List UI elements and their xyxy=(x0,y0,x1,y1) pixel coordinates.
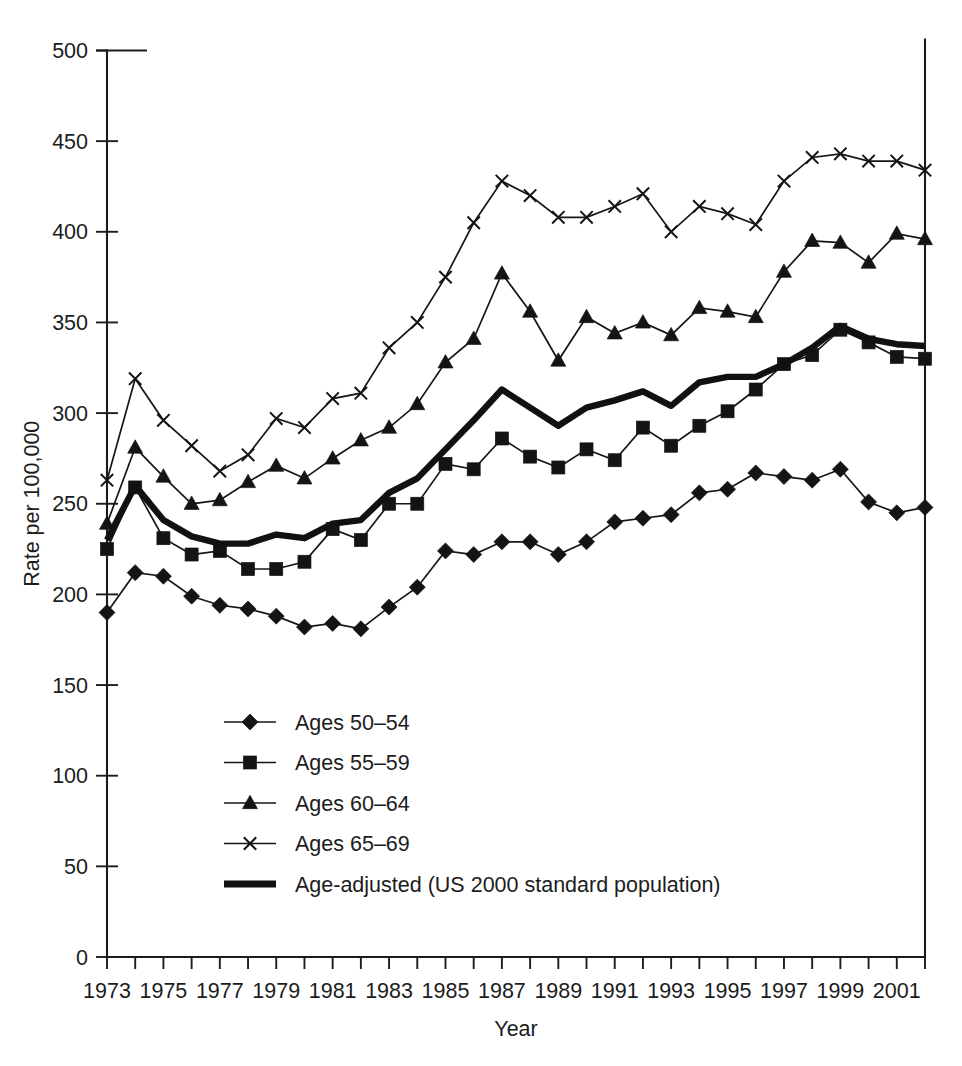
x-tick-label-1977: 1977 xyxy=(196,979,244,1003)
data-point-0-1973 xyxy=(99,605,115,621)
data-point-1-1996 xyxy=(749,383,762,396)
data-point-1-1989 xyxy=(552,461,565,474)
x-tick-label-1983: 1983 xyxy=(365,979,413,1003)
legend-marker-square xyxy=(244,756,257,769)
data-point-2-1978 xyxy=(241,474,256,487)
data-point-0-2002 xyxy=(917,499,933,515)
data-point-0-1974 xyxy=(127,565,143,581)
data-point-3-1993 xyxy=(665,226,677,238)
data-point-3-1991 xyxy=(609,200,621,212)
data-point-1-1978 xyxy=(242,563,255,576)
data-point-1-1980 xyxy=(298,555,311,568)
data-point-1-1994 xyxy=(693,419,706,432)
data-point-0-1991 xyxy=(607,514,623,530)
data-point-0-1989 xyxy=(550,547,566,563)
data-point-2-1984 xyxy=(410,396,425,409)
data-point-0-1985 xyxy=(437,543,453,559)
data-point-2-2001 xyxy=(889,226,904,239)
data-point-3-1979 xyxy=(270,412,282,424)
y-tick-label-200: 200 xyxy=(52,583,88,607)
y-tick-label-0: 0 xyxy=(76,946,88,970)
data-point-2-1982 xyxy=(353,433,368,446)
data-point-1-1982 xyxy=(354,534,367,547)
x-axis-title: Year xyxy=(494,1017,537,1041)
data-point-1-1988 xyxy=(524,450,537,463)
data-point-3-1987 xyxy=(496,175,508,187)
data-point-3-1974 xyxy=(129,372,141,384)
legend-item-0: Ages 50–54 xyxy=(224,711,410,735)
legend-item-1: Ages 55–59 xyxy=(224,751,410,775)
series-path-3 xyxy=(107,154,925,480)
legend-label-4: Age-adjusted (US 2000 standard populatio… xyxy=(295,873,721,897)
data-point-3-1985 xyxy=(439,271,451,283)
data-point-3-1994 xyxy=(693,200,705,212)
data-point-0-1987 xyxy=(494,534,510,550)
series-3 xyxy=(101,148,931,487)
data-point-0-1994 xyxy=(691,485,707,501)
data-point-2-1977 xyxy=(212,492,227,505)
data-point-3-1997 xyxy=(778,175,790,187)
data-point-2-1989 xyxy=(551,353,566,366)
data-point-1-1984 xyxy=(411,497,424,510)
data-point-0-1992 xyxy=(635,510,651,526)
x-tick-label-1989: 1989 xyxy=(534,979,582,1003)
data-point-0-1995 xyxy=(720,481,736,497)
data-point-1-1975 xyxy=(157,532,170,545)
data-point-2-1987 xyxy=(494,266,509,279)
data-point-1-1992 xyxy=(636,421,649,434)
data-point-0-1986 xyxy=(466,547,482,563)
x-tick-label-1981: 1981 xyxy=(309,979,357,1003)
data-point-3-1992 xyxy=(637,188,649,200)
y-tick-label-250: 250 xyxy=(52,492,88,516)
x-tick-label-1995: 1995 xyxy=(704,979,752,1003)
data-point-1-1991 xyxy=(608,454,621,467)
y-tick-label-150: 150 xyxy=(52,674,88,698)
data-point-1-1990 xyxy=(580,443,593,456)
data-point-1-2002 xyxy=(919,352,932,365)
data-point-1-1995 xyxy=(721,405,734,418)
data-point-0-1998 xyxy=(804,472,820,488)
legend-label-1: Ages 55–59 xyxy=(295,751,410,775)
y-tick-label-450: 450 xyxy=(52,130,88,154)
data-point-2-1986 xyxy=(466,331,481,344)
data-point-0-1993 xyxy=(663,507,679,523)
y-axis-title: Rate per 100,000 xyxy=(20,421,44,587)
data-point-3-1984 xyxy=(411,316,423,328)
data-point-2-1985 xyxy=(438,355,453,368)
data-point-1-1973 xyxy=(101,543,114,556)
x-tick-label-1999: 1999 xyxy=(816,979,864,1003)
axis-titles: Rate per 100,000Year xyxy=(20,421,538,1041)
data-point-2-1980 xyxy=(297,471,312,484)
data-point-1-1987 xyxy=(495,432,508,445)
data-point-0-1979 xyxy=(268,608,284,624)
x-tick-label-1987: 1987 xyxy=(478,979,526,1003)
data-point-2-1981 xyxy=(325,451,340,464)
series-path-2 xyxy=(107,234,925,524)
data-point-0-1990 xyxy=(579,534,595,550)
x-tick-label-1985: 1985 xyxy=(422,979,470,1003)
x-tick-label-2001: 2001 xyxy=(873,979,921,1003)
data-point-0-1983 xyxy=(381,599,397,615)
data-point-2-1991 xyxy=(607,326,622,339)
x-tick-label-1973: 1973 xyxy=(83,979,131,1003)
data-point-0-1982 xyxy=(353,621,369,637)
data-point-0-1984 xyxy=(409,579,425,595)
x-tick-label-1993: 1993 xyxy=(647,979,695,1003)
x-tick-label-1979: 1979 xyxy=(252,979,300,1003)
x-tick-label-1997: 1997 xyxy=(760,979,808,1003)
data-point-1-1986 xyxy=(467,463,480,476)
data-point-1-1993 xyxy=(665,439,678,452)
legend-label-2: Ages 60–64 xyxy=(295,792,410,816)
data-point-1-1979 xyxy=(270,563,283,576)
chart-legend: Ages 50–54Ages 55–59Ages 60–64Ages 65–69… xyxy=(224,711,721,897)
legend-item-4: Age-adjusted (US 2000 standard populatio… xyxy=(224,873,721,897)
data-point-3-1996 xyxy=(750,218,762,230)
data-point-1-1976 xyxy=(185,548,198,561)
y-tick-label-500: 500 xyxy=(52,39,88,63)
legend-label-3: Ages 65–69 xyxy=(295,832,410,856)
data-point-3-1977 xyxy=(214,465,226,477)
data-point-2-1974 xyxy=(128,440,143,453)
data-point-3-1978 xyxy=(242,449,254,461)
y-tick-label-100: 100 xyxy=(52,764,88,788)
legend-marker-diamond xyxy=(242,714,258,730)
